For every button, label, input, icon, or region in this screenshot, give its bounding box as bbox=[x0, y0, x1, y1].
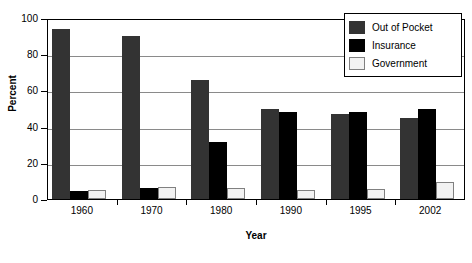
bar-group bbox=[122, 20, 176, 199]
bar-group bbox=[191, 20, 245, 199]
y-axis-tick-mark bbox=[41, 128, 47, 129]
x-axis-tick-labels: 196019701980199019952002 bbox=[47, 205, 465, 219]
y-axis-tick-label: 80 bbox=[10, 50, 38, 60]
x-axis-title: Year bbox=[47, 230, 465, 241]
bar bbox=[227, 188, 245, 199]
bar bbox=[331, 114, 349, 199]
y-axis-tick-mark bbox=[41, 91, 47, 92]
legend-label: Government bbox=[372, 58, 427, 69]
x-axis-tick-label: 1970 bbox=[127, 205, 177, 216]
bar bbox=[349, 112, 367, 199]
bar bbox=[297, 190, 315, 199]
legend-swatch-icon bbox=[349, 57, 365, 70]
x-axis-tick-label: 1960 bbox=[57, 205, 107, 216]
x-axis-tick-mark bbox=[256, 200, 257, 205]
legend-item: Insurance bbox=[349, 36, 457, 54]
bar bbox=[418, 109, 436, 200]
y-axis-tick-label: 60 bbox=[10, 86, 38, 96]
y-axis-tick-label: 0 bbox=[10, 195, 38, 205]
x-axis-tick-label: 1995 bbox=[336, 205, 386, 216]
bar bbox=[140, 188, 158, 199]
bar-chart: Percent 020406080100 1960197019801990199… bbox=[0, 0, 472, 263]
bar bbox=[191, 80, 209, 199]
bar bbox=[70, 191, 88, 199]
x-axis-tick-label: 1990 bbox=[266, 205, 316, 216]
y-axis-tick-label: 40 bbox=[10, 123, 38, 133]
y-axis-tick-mark bbox=[41, 200, 47, 201]
x-axis-tick-mark bbox=[326, 200, 327, 205]
y-axis-tick-labels: 020406080100 bbox=[8, 0, 38, 263]
bar bbox=[158, 187, 176, 199]
bar bbox=[279, 112, 297, 199]
bar-group bbox=[261, 20, 315, 199]
bar bbox=[400, 118, 418, 199]
bar bbox=[261, 109, 279, 200]
y-axis-tick-mark bbox=[41, 55, 47, 56]
legend-swatch-icon bbox=[349, 39, 365, 52]
x-axis-tick-label: 1980 bbox=[196, 205, 246, 216]
bar bbox=[209, 142, 227, 199]
y-axis-tick-label: 20 bbox=[10, 159, 38, 169]
y-axis-tick-mark bbox=[41, 164, 47, 165]
x-axis-tick-mark bbox=[395, 200, 396, 205]
x-axis-tick-mark bbox=[186, 200, 187, 205]
bar bbox=[88, 190, 106, 199]
legend-item: Out of Pocket bbox=[349, 18, 457, 36]
bar bbox=[52, 29, 70, 199]
x-axis-tick-mark bbox=[117, 200, 118, 205]
chart-legend: Out of PocketInsuranceGovernment bbox=[344, 13, 462, 77]
bar bbox=[367, 189, 385, 199]
legend-label: Out of Pocket bbox=[372, 22, 433, 33]
legend-item: Government bbox=[349, 54, 457, 72]
bar bbox=[436, 182, 454, 199]
y-axis-tick-mark bbox=[41, 19, 47, 20]
legend-swatch-icon bbox=[349, 21, 365, 34]
bar bbox=[122, 36, 140, 199]
bar-group bbox=[52, 20, 106, 199]
legend-label: Insurance bbox=[372, 40, 416, 51]
x-axis-tick-label: 2002 bbox=[405, 205, 455, 216]
y-axis-tick-label: 100 bbox=[10, 14, 38, 24]
